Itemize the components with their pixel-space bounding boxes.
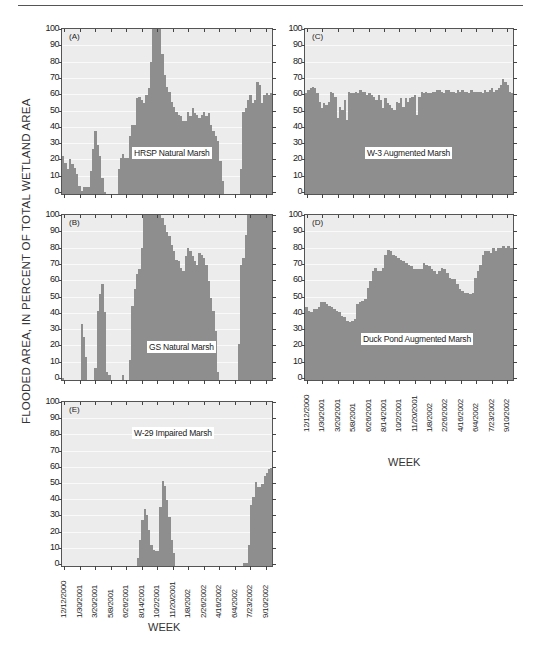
y-tick-mark — [272, 127, 276, 128]
y-tick-label: 80 — [280, 56, 302, 66]
y-tick-mark — [272, 515, 276, 516]
x-tick-mark — [476, 29, 477, 32]
x-tick-mark — [173, 215, 174, 218]
x-axis-label-right: WEEK — [388, 456, 420, 468]
x-tick-mark — [235, 215, 236, 218]
y-tick-mark — [513, 248, 517, 249]
x-tick-mark — [188, 215, 189, 218]
y-tick-mark — [302, 215, 305, 216]
panel-b-gs-natural-marsh: (B)GS Natural Marsh010203040506070809010… — [61, 214, 273, 381]
x-tick-mark — [95, 402, 96, 405]
x-tick-mark — [250, 194, 251, 198]
x-tick-mark — [204, 402, 205, 405]
x-tick-mark — [204, 380, 205, 384]
x-tick-mark — [235, 380, 236, 384]
x-tick-label: 10/2/2001 — [152, 585, 161, 618]
x-tick-label: 6/4/2002 — [230, 589, 239, 618]
y-tick-mark — [59, 62, 62, 63]
x-tick-label: 8/14/2001 — [137, 585, 146, 618]
x-tick-label: 5/8/2001 — [348, 403, 357, 432]
x-tick-mark — [307, 194, 308, 198]
x-tick-mark — [507, 215, 508, 218]
x-tick-mark — [80, 215, 81, 218]
plot-area — [62, 29, 272, 194]
y-tick-label: 60 — [280, 88, 302, 98]
y-tick-mark — [59, 231, 62, 232]
y-tick-mark — [272, 434, 276, 435]
y-tick-label: 10 — [37, 356, 59, 366]
x-tick-mark — [142, 402, 143, 405]
x-tick-mark — [461, 215, 462, 218]
x-tick-mark — [322, 215, 323, 218]
y-tick-mark — [272, 215, 276, 216]
x-tick-mark — [235, 566, 236, 570]
x-tick-mark — [507, 194, 508, 198]
y-tick-mark — [272, 62, 276, 63]
x-tick-mark — [80, 402, 81, 405]
y-tick-label: 10 — [280, 170, 302, 180]
y-tick-label: 0 — [280, 186, 302, 196]
y-tick-mark — [513, 45, 517, 46]
y-tick-mark — [302, 111, 305, 112]
x-tick-mark — [95, 194, 96, 198]
y-tick-mark — [59, 127, 62, 128]
x-tick-mark — [369, 380, 370, 384]
y-tick-mark — [513, 215, 517, 216]
y-tick-mark — [272, 176, 276, 177]
y-tick-label: 80 — [37, 56, 59, 66]
x-tick-mark — [250, 566, 251, 570]
y-tick-label: 10 — [37, 170, 59, 180]
x-tick-label: 3/20/2001 — [90, 585, 99, 618]
bar — [104, 192, 106, 194]
y-tick-label: 40 — [37, 493, 59, 503]
x-tick-mark — [322, 380, 323, 384]
plot-area — [62, 215, 272, 380]
x-tick-mark — [507, 29, 508, 32]
x-tick-mark — [415, 380, 416, 384]
x-tick-mark — [445, 215, 446, 218]
y-tick-label: 50 — [37, 105, 59, 115]
x-tick-label: 11/20/2001 — [168, 582, 177, 618]
y-tick-label: 90 — [37, 412, 59, 422]
y-tick-mark — [302, 78, 305, 79]
x-tick-mark — [492, 29, 493, 32]
x-tick-mark — [142, 29, 143, 32]
x-tick-mark — [250, 215, 251, 218]
y-tick-mark — [513, 29, 517, 30]
x-tick-label: 5/8/2001 — [106, 589, 115, 618]
x-tick-mark — [338, 194, 339, 198]
y-tick-mark — [272, 94, 276, 95]
y-tick-mark — [302, 264, 305, 265]
y-tick-mark — [513, 345, 517, 346]
x-tick-mark — [445, 29, 446, 32]
panel-letter: (E) — [69, 405, 80, 414]
y-tick-mark — [513, 378, 517, 379]
x-tick-label: 7/23/2002 — [487, 399, 496, 432]
y-tick-mark — [272, 78, 276, 79]
x-tick-mark — [64, 380, 65, 384]
plot-area — [305, 215, 513, 380]
y-tick-mark — [59, 402, 62, 403]
x-tick-label: 6/26/2001 — [364, 399, 373, 432]
y-tick-mark — [59, 297, 62, 298]
y-tick-mark — [59, 111, 62, 112]
site-name-label: Duck Pond Augmented Marsh — [361, 333, 473, 345]
y-tick-mark — [513, 143, 517, 144]
y-tick-mark — [302, 329, 305, 330]
x-tick-mark — [126, 566, 127, 570]
x-tick-mark — [266, 215, 267, 218]
y-tick-label: 90 — [37, 225, 59, 235]
x-tick-mark — [219, 194, 220, 198]
y-tick-mark — [272, 29, 276, 30]
x-tick-mark — [204, 29, 205, 32]
y-tick-mark — [272, 499, 276, 500]
panel-letter: (C) — [312, 32, 323, 41]
x-tick-mark — [492, 380, 493, 384]
bar — [104, 312, 106, 380]
y-tick-label: 0 — [37, 558, 59, 568]
x-tick-mark — [173, 566, 174, 570]
x-tick-mark — [338, 215, 339, 218]
bar — [217, 372, 219, 380]
x-tick-mark — [266, 380, 267, 384]
y-tick-mark — [272, 143, 276, 144]
